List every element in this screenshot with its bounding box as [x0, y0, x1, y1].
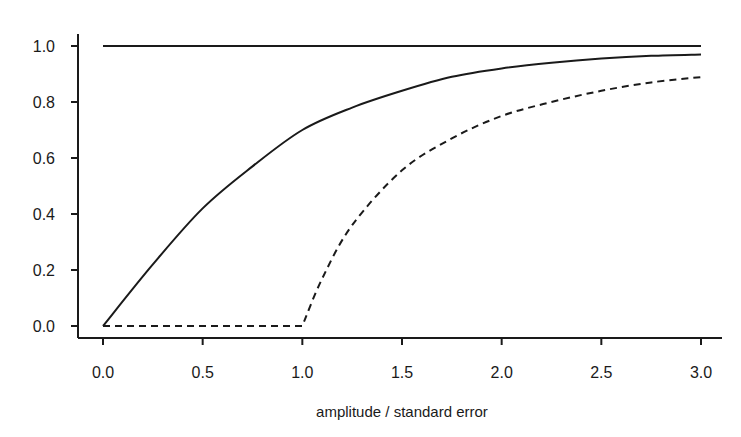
x-ticks: 0.00.51.01.52.02.53.0: [92, 338, 712, 381]
x-tick-label: 2.0: [491, 364, 513, 381]
x-tick-label: 1.0: [291, 364, 313, 381]
axes: [78, 34, 722, 338]
x-axis-label: amplitude / standard error: [316, 403, 488, 420]
y-tick-label: 0.2: [33, 262, 55, 279]
x-tick-label: 0.5: [192, 364, 214, 381]
y-tick-label: 0.4: [33, 206, 55, 223]
y-tick-label: 0.6: [33, 150, 55, 167]
x-tick-label: 1.5: [391, 364, 413, 381]
plot-series: [103, 46, 701, 326]
y-ticks: 0.00.20.40.60.81.0: [33, 38, 78, 335]
x-tick-label: 3.0: [690, 364, 712, 381]
y-tick-label: 0.0: [33, 318, 55, 335]
y-tick-label: 1.0: [33, 38, 55, 55]
x-tick-label: 2.5: [590, 364, 612, 381]
solid-curve: [103, 54, 701, 326]
dashed-curve: [103, 77, 701, 326]
chart: 0.00.20.40.60.81.0 0.00.51.01.52.02.53.0…: [0, 0, 741, 437]
y-tick-label: 0.8: [33, 94, 55, 111]
x-tick-label: 0.0: [92, 364, 114, 381]
